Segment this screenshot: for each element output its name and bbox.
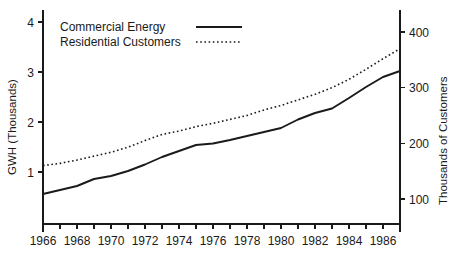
left-axis-ticks: 1234 (27, 16, 43, 180)
left-tick-label: 3 (27, 66, 34, 80)
x-tick-label: 1976 (200, 234, 227, 248)
x-tick-label: 1978 (234, 234, 261, 248)
right-axis-title: Thousands of Customers (437, 76, 449, 205)
right-tick-label: 200 (409, 137, 429, 151)
legend-label-residential-customers: Residential Customers (60, 35, 181, 49)
left-tick-label: 1 (27, 166, 34, 180)
right-axis-ticks: 100200300400 (400, 26, 429, 207)
x-axis-ticks: 1966196819701972197419761978198019821984… (30, 224, 400, 248)
x-tick-label: 1966 (30, 234, 57, 248)
right-tick-label: 300 (409, 81, 429, 95)
left-tick-label: 2 (27, 116, 34, 130)
x-tick-label: 1968 (64, 234, 91, 248)
line-chart: 1234 100200300400 1966196819701972197419… (0, 0, 453, 258)
series-line-residential-customers (43, 49, 400, 166)
left-tick-label: 4 (27, 16, 34, 30)
chart-legend: Commercial Energy Residential Customers (60, 20, 242, 49)
legend-label-commercial-energy: Commercial Energy (60, 20, 165, 34)
series-lines (43, 49, 400, 194)
x-tick-label: 1986 (370, 234, 397, 248)
right-tick-label: 100 (409, 193, 429, 207)
right-tick-label: 400 (409, 26, 429, 40)
x-tick-label: 1970 (98, 234, 125, 248)
x-tick-label: 1980 (268, 234, 295, 248)
x-tick-label: 1984 (336, 234, 363, 248)
x-tick-label: 1972 (132, 234, 159, 248)
x-tick-label: 1982 (302, 234, 329, 248)
chart-container: 1234 100200300400 1966196819701972197419… (0, 0, 453, 258)
x-tick-label: 1974 (166, 234, 193, 248)
series-line-commercial-energy (43, 71, 400, 194)
left-axis-title: GWH (Thousands) (6, 79, 18, 175)
